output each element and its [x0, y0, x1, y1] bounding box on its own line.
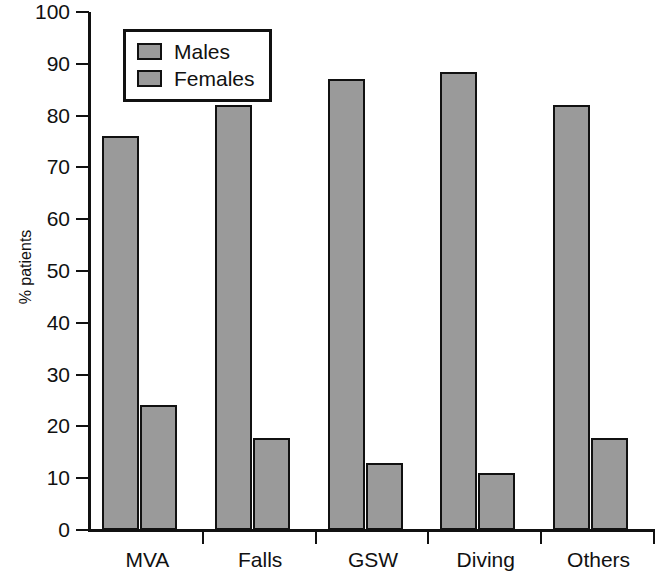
y-axis-tick-label: 10 — [4, 467, 70, 488]
y-axis-tick-label: 40 — [4, 312, 70, 333]
bar-falls-males — [215, 105, 252, 530]
x-axis-tick — [427, 531, 429, 544]
bar-gsw-males — [328, 79, 365, 530]
y-axis-tick-label: 60 — [4, 208, 70, 229]
y-axis-tick — [76, 529, 89, 531]
y-axis-tick-label: 80 — [4, 105, 70, 126]
x-axis-tick-label: MVA — [82, 548, 212, 571]
y-axis-tick — [76, 218, 89, 220]
bar-mva-males — [102, 136, 139, 530]
x-axis-tick — [315, 531, 317, 544]
y-axis-tick-label: 0 — [4, 519, 70, 540]
y-axis-tick-label: 70 — [4, 156, 70, 177]
y-axis-tick — [76, 270, 89, 272]
bar-others-females — [591, 438, 628, 530]
legend-entry-females: Females — [137, 65, 255, 92]
y-axis-tick — [76, 322, 89, 324]
y-axis-tick — [76, 166, 89, 168]
y-axis-tick — [76, 425, 89, 427]
bar-chart: % patients 0102030405060708090100 MVAFal… — [0, 0, 655, 572]
y-axis-tick — [76, 63, 89, 65]
bar-gsw-females — [366, 463, 403, 530]
x-axis-tick — [202, 531, 204, 544]
y-axis-tick — [76, 11, 89, 13]
y-axis-tick-label: 20 — [4, 415, 70, 436]
x-axis-tick-label: GSW — [308, 548, 438, 571]
x-axis-tick-label: Others — [534, 548, 655, 571]
y-axis-tick-label: 100 — [4, 1, 70, 22]
legend-swatch-icon — [137, 70, 162, 87]
legend-swatch-icon — [137, 43, 162, 60]
bar-diving-males — [440, 72, 477, 530]
legend: Males Females — [123, 29, 272, 102]
y-axis-tick — [76, 477, 89, 479]
bar-diving-females — [478, 473, 515, 530]
y-axis-tick-label: 50 — [4, 260, 70, 281]
y-axis-tick-label: 90 — [4, 53, 70, 74]
x-axis-tick — [540, 531, 542, 544]
bar-falls-females — [253, 438, 290, 530]
legend-label-females: Females — [174, 68, 255, 89]
x-axis-tick-label: Falls — [195, 548, 325, 571]
y-axis-tick — [76, 115, 89, 117]
legend-label-males: Males — [174, 41, 230, 62]
x-axis-tick-label: Diving — [421, 548, 551, 571]
y-axis-tick-label: 30 — [4, 364, 70, 385]
legend-entry-males: Males — [137, 38, 255, 65]
bar-others-males — [553, 105, 590, 530]
y-axis-tick — [76, 374, 89, 376]
bar-mva-females — [140, 405, 177, 530]
